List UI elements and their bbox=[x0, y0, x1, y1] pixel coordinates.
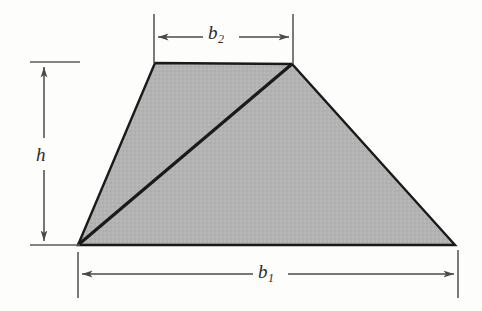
label-height-h: h bbox=[36, 145, 46, 164]
label-h-symbol: h bbox=[36, 144, 46, 165]
label-b1-subscript: 1 bbox=[268, 271, 274, 285]
label-b2-subscript: 2 bbox=[218, 32, 224, 46]
trapezoid-shape bbox=[78, 63, 455, 245]
label-bottom-base-b1: b1 bbox=[258, 262, 274, 281]
label-top-base-b2: b2 bbox=[208, 23, 224, 42]
trapezoid-diagram-svg bbox=[0, 0, 482, 311]
trapezoid-outline bbox=[78, 63, 455, 245]
label-b2-symbol: b bbox=[208, 22, 218, 43]
label-b1-symbol: b bbox=[258, 261, 268, 282]
geometry-figure: b2 b1 h bbox=[0, 0, 482, 311]
